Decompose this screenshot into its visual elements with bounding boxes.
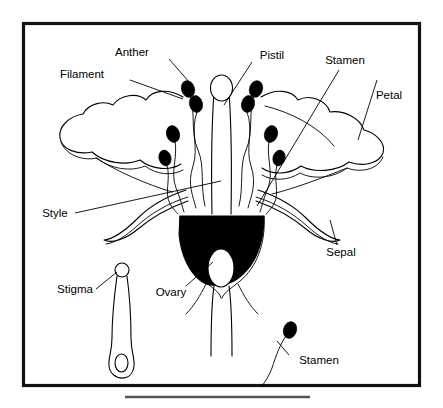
sepal-left-edge [106,197,188,244]
stem-base-right [238,284,258,314]
label-style: Style [42,207,68,219]
flower-diagram-figure: Anther Filament Pistil Stamen Petal Styl… [0,0,443,408]
inset-filament [262,336,286,386]
label-stamen-upper: Stamen [325,54,365,66]
sepal-right-edge [256,197,338,244]
leader-anther [169,59,190,83]
style-column-right [229,92,231,214]
style-column-left [212,92,214,214]
petal-right-inner-fold [265,106,334,146]
leader-stamen-lower [277,341,289,355]
label-stamen-lower: Stamen [299,354,339,366]
stem-right-edge [229,286,232,356]
label-anther: Anther [115,46,149,58]
label-sepal: Sepal [326,246,355,258]
stem [211,286,214,356]
petal-right-vein [272,168,347,194]
stem-base-left [186,284,206,314]
anther-right-3 [262,124,279,144]
ovule-cavity [208,249,234,287]
inset-stigma-head [115,263,129,277]
label-stigma: Stigma [57,283,93,295]
anther-right-4 [271,149,287,168]
inset-anther [281,320,299,340]
flower-anatomy-diagram: Anther Filament Pistil Stamen Petal Styl… [0,0,443,408]
leader-style [75,181,221,213]
label-petal: Petal [376,89,402,101]
label-pistil: Pistil [260,49,284,61]
anther-left-3 [164,124,181,144]
sepal-right [256,190,340,241]
label-filament: Filament [60,68,105,80]
label-ovary: Ovary [156,286,187,298]
anther-left-4 [157,149,173,168]
inset-ovule [115,354,128,372]
leader-stigma [96,272,117,289]
